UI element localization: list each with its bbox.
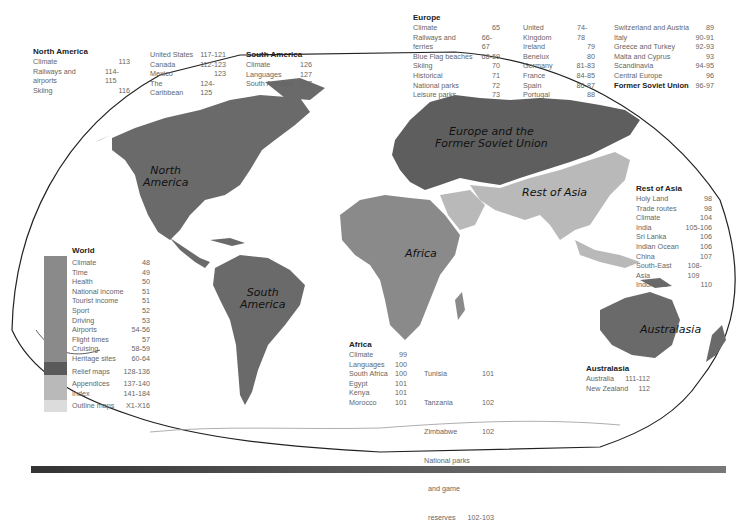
map-label-europe-fsu: Europe and the Former Soviet Union	[435, 126, 548, 150]
legend-swatch-appendices	[44, 375, 67, 400]
section-title: North America	[33, 47, 130, 57]
index-entry[interactable]: Indonesia110	[636, 280, 712, 290]
index-entry[interactable]: Spain86-87	[523, 81, 595, 91]
label-line: America	[240, 299, 285, 311]
label-line: Former Soviet Union	[435, 138, 548, 150]
index-entry[interactable]: Appendices137-140	[72, 379, 150, 389]
index-entry[interactable]: Skiing116	[33, 86, 130, 96]
index-entry[interactable]: Skiing70	[413, 61, 500, 71]
map-label-rest-of-asia: Rest of Asia	[522, 187, 587, 199]
south-america-index: South America Climate126 Languages127 So…	[246, 50, 312, 89]
index-entry[interactable]: Languages127	[246, 70, 312, 80]
index-entry[interactable]: Tanzania102	[424, 398, 494, 408]
index-entry[interactable]: National parks72	[413, 81, 500, 91]
index-entry[interactable]: Climate126	[246, 60, 312, 70]
map-label-south-america: South America	[240, 287, 285, 311]
legend-swatch-outline	[44, 400, 67, 412]
australasia-index: Australasia Australia111-112 New Zealand…	[586, 364, 650, 393]
index-entry[interactable]: Holy Land98	[636, 194, 712, 204]
index-entry[interactable]: The Caribbean124-125	[150, 79, 226, 98]
section-title: World	[72, 246, 150, 256]
map-label-north-america: North America	[143, 165, 188, 189]
index-entry[interactable]: Benelux80	[523, 52, 595, 62]
index-entry[interactable]: and game	[424, 484, 494, 494]
index-entry[interactable]: Railways and airports114-115	[33, 67, 130, 86]
africa-index: Africa Climate99 Languages100 South Afri…	[349, 340, 407, 408]
index-entry[interactable]: Switzerland and Austria89	[614, 23, 714, 33]
index-entry[interactable]: Sri Lanka106	[636, 232, 712, 242]
index-entry[interactable]: Leisure parks73	[413, 90, 500, 100]
index-entry[interactable]: Heritage sites60-64	[72, 354, 150, 364]
world-index: World Climate48 Time49 Health50 National…	[72, 246, 150, 411]
index-entry[interactable]: Scandinavia94-95	[614, 61, 714, 71]
index-entry[interactable]: Italy90-91	[614, 33, 714, 43]
index-entry[interactable]: Health50	[72, 277, 150, 287]
index-entry[interactable]: Trade routes98	[636, 204, 712, 214]
index-entry[interactable]: Climate65	[413, 23, 500, 33]
section-title: Australasia	[586, 364, 650, 374]
index-entry[interactable]: Indian Ocean106	[636, 242, 712, 252]
index-entry[interactable]: Sport52	[72, 306, 150, 316]
index-entry[interactable]: Time49	[72, 268, 150, 278]
north-america-index: North America Climate113 Railways and ai…	[33, 47, 130, 95]
index-entry[interactable]: Historical71	[413, 71, 500, 81]
index-entry[interactable]: Climate113	[33, 57, 130, 67]
index-entry[interactable]: Central Europe96	[614, 71, 714, 81]
index-entry[interactable]: India105-106	[636, 223, 712, 233]
europe-index-col3: Switzerland and Austria89 Italy90-91 Gre…	[614, 23, 714, 90]
index-entry[interactable]: Flight times57	[72, 335, 150, 345]
europe-index-col2: United Kingdom74-78 Ireland79 Benelux80 …	[523, 23, 595, 100]
index-entry[interactable]: South-East Asia108-109	[636, 261, 712, 280]
index-entry[interactable]: Zimbabwe102	[424, 427, 494, 437]
index-entry[interactable]: reserves102-103	[424, 513, 494, 523]
index-entry[interactable]: Tunisia101	[424, 369, 494, 379]
index-entry[interactable]: Languages100	[349, 360, 407, 370]
index-entry[interactable]: Airports54-56	[72, 325, 150, 335]
index-entry[interactable]: Ireland79	[523, 42, 595, 52]
index-entry[interactable]: South Africa100	[349, 369, 407, 379]
index-entry[interactable]: Malta and Cyprus93	[614, 52, 714, 62]
index-entry[interactable]: United Kingdom74-78	[523, 23, 595, 42]
label-line: America	[143, 177, 188, 189]
index-entry[interactable]: Australia111-112	[586, 374, 650, 384]
index-entry[interactable]: Climate48	[72, 258, 150, 268]
index-entry[interactable]: China107	[636, 252, 712, 262]
index-entry[interactable]: Tourist income51	[72, 296, 150, 306]
index-entry-relief[interactable]: Relief maps128-136	[72, 367, 150, 377]
index-entry[interactable]: National income51	[72, 287, 150, 297]
map-label-africa: Africa	[405, 248, 437, 260]
index-entry[interactable]: Railways and ferries66-67	[413, 33, 500, 52]
index-entry[interactable]: Portugal88	[523, 90, 595, 100]
section-title: Rest of Asia	[636, 184, 712, 194]
europe-index: Europe Climate65 Railways and ferries66-…	[413, 13, 500, 100]
index-entry[interactable]: South America127	[246, 79, 312, 89]
index-entry[interactable]: Climate104	[636, 213, 712, 223]
legend-swatch-relief	[44, 362, 67, 375]
legend-swatch-world	[44, 256, 67, 362]
section-title: South America	[246, 50, 312, 60]
index-entry[interactable]: Morocco101	[349, 398, 407, 408]
index-entry[interactable]: New Zealand112	[586, 384, 650, 394]
north-america-index-col2: United States117-121 Canada112-123 Mexic…	[150, 50, 226, 98]
index-entry[interactable]: Climate99	[349, 350, 407, 360]
rest-of-asia-index: Rest of Asia Holy Land98 Trade routes98 …	[636, 184, 712, 290]
index-entry[interactable]: Greece and Turkey92-93	[614, 42, 714, 52]
index-entry-fsu[interactable]: Former Soviet Union96-97	[614, 81, 714, 91]
index-entry[interactable]: France84-85	[523, 71, 595, 81]
map-label-australasia: Australasia	[640, 324, 701, 336]
index-entry[interactable]: Canada112-123	[150, 60, 226, 70]
index-entry[interactable]: National parks	[424, 456, 494, 466]
index-entry[interactable]: Driving53	[72, 316, 150, 326]
index-entry[interactable]: United States117-121	[150, 50, 226, 60]
index-entry[interactable]: Index141-184	[72, 389, 150, 399]
index-entry[interactable]: Cruising58-59	[72, 344, 150, 354]
index-entry[interactable]: Egypt101	[349, 379, 407, 389]
section-title: Africa	[349, 340, 407, 350]
index-entry[interactable]: Kenya101	[349, 388, 407, 398]
footer-bar	[31, 466, 726, 473]
index-entry[interactable]: Mexico123	[150, 69, 226, 79]
index-entry[interactable]: Blue Flag beaches68-69	[413, 52, 500, 62]
africa-index-col2: Tunisia101 Tanzania102 Zimbabwe102 Natio…	[424, 350, 494, 524]
index-entry-outline[interactable]: Outline mapsX1-X16	[72, 401, 150, 411]
index-entry[interactable]: Germany81-83	[523, 61, 595, 71]
